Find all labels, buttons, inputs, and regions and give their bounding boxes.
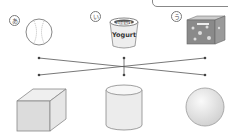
- connection-lines: [39, 58, 205, 75]
- sphere-icon: [186, 88, 224, 126]
- cube-icon: [17, 89, 66, 131]
- worksheet-drawing: yogurt Yogurt: [0, 0, 228, 137]
- svg-text:Yogurt: Yogurt: [111, 31, 136, 39]
- yogurt-icon: yogurt Yogurt: [110, 18, 138, 48]
- svg-text:yogurt: yogurt: [117, 20, 132, 25]
- cylinder-icon: [106, 85, 142, 130]
- cereal-box-icon: [187, 16, 225, 44]
- baseball-icon: [26, 19, 52, 45]
